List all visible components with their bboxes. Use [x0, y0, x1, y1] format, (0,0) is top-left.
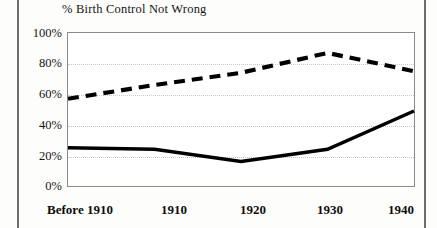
- dashed-series-line: [68, 53, 414, 99]
- y-tick-label: 60%: [18, 88, 62, 101]
- x-axis-labels: Before 1910 1910 1920 1930 1940: [0, 203, 437, 225]
- x-tick-label: 1910: [161, 203, 187, 217]
- chart-figure: % Birth Control Not Wrong 100% 80% 60% 4…: [0, 0, 437, 228]
- chart-title: % Birth Control Not Wrong: [62, 2, 207, 17]
- x-tick-label: Before 1910: [47, 203, 113, 217]
- y-tick-label: 100%: [18, 27, 62, 40]
- x-tick-label: 1920: [240, 203, 266, 217]
- x-tick-label: 1930: [317, 203, 343, 217]
- y-tick-label: 40%: [18, 119, 62, 132]
- y-tick-label: 80%: [18, 57, 62, 70]
- plot-area: [67, 32, 415, 187]
- series-layer: [68, 33, 414, 186]
- solid-series-line: [68, 111, 414, 161]
- y-tick-label: 0%: [18, 180, 62, 193]
- y-tick-label: 20%: [18, 150, 62, 163]
- x-tick-label: 1940: [388, 203, 414, 217]
- page-border-right: [424, 0, 426, 228]
- y-axis-labels: 100% 80% 60% 40% 20% 0%: [18, 0, 62, 228]
